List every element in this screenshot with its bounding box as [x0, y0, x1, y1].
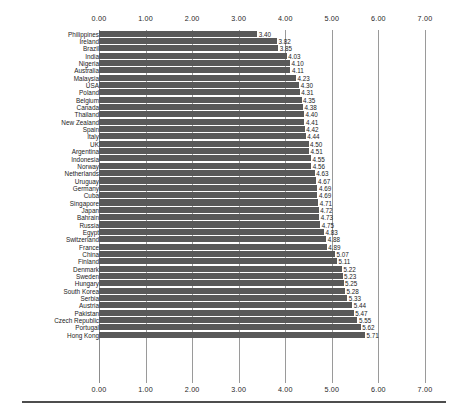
bar-row[interactable]: USA4.30	[0, 81, 466, 88]
bar[interactable]	[99, 53, 287, 59]
bar[interactable]	[99, 199, 318, 205]
bar[interactable]	[99, 317, 357, 323]
bar-row[interactable]: Norway4.56	[0, 162, 466, 169]
bar[interactable]	[99, 214, 319, 220]
bar[interactable]	[99, 97, 302, 103]
bar-row[interactable]: Thailand4.40	[0, 111, 466, 118]
category-label: Portugal	[75, 324, 99, 331]
bar[interactable]	[99, 133, 306, 139]
bar[interactable]	[99, 126, 305, 132]
category-label: USA	[86, 82, 99, 89]
bar[interactable]	[99, 119, 304, 125]
bar-row[interactable]: Uruguay4.67	[0, 177, 466, 184]
bar-row[interactable]: Switzerland4.88	[0, 236, 466, 243]
bar[interactable]	[99, 177, 316, 183]
bar[interactable]	[99, 229, 324, 235]
bar-row[interactable]: Finland5.11	[0, 258, 466, 265]
bar-row[interactable]: Japan4.72	[0, 206, 466, 213]
bar-row[interactable]: Spain4.42	[0, 125, 466, 132]
bar[interactable]	[99, 75, 296, 81]
bar[interactable]	[99, 280, 344, 286]
bar-value-label: 4.89	[327, 243, 341, 250]
bar-row[interactable]: Cuba4.69	[0, 192, 466, 199]
bar[interactable]	[99, 104, 303, 110]
bar[interactable]	[99, 89, 300, 95]
bar-row[interactable]: India4.03	[0, 52, 466, 59]
bar[interactable]	[99, 288, 345, 294]
bar[interactable]	[99, 332, 365, 338]
bar-row[interactable]: Malaysia4.23	[0, 74, 466, 81]
bar-value-label: 4.10	[290, 60, 304, 67]
bar[interactable]	[99, 251, 335, 257]
bar[interactable]	[99, 185, 317, 191]
bar-row[interactable]: Argentina4.51	[0, 148, 466, 155]
bar-row[interactable]: Canada4.38	[0, 103, 466, 110]
bar[interactable]	[99, 221, 320, 227]
category-label: Italy	[87, 133, 99, 140]
category-label: Brazil	[83, 45, 99, 52]
bar[interactable]	[99, 148, 309, 154]
bar-row[interactable]: Belgium4.35	[0, 96, 466, 103]
bar-row[interactable]: Netherlands4.63	[0, 170, 466, 177]
bar[interactable]	[99, 60, 290, 66]
bar[interactable]	[99, 163, 311, 169]
category-label: Japan	[82, 206, 99, 213]
bar-row[interactable]: Bahrain4.73	[0, 214, 466, 221]
bar-value-label: 5.62	[361, 324, 375, 331]
bar-row[interactable]: Serbia5.33	[0, 294, 466, 301]
bar[interactable]	[99, 324, 361, 330]
bar-row[interactable]: Pakistan5.47	[0, 309, 466, 316]
x-tick-label-bottom-2.00: 2.00	[185, 385, 200, 394]
bar[interactable]	[99, 273, 343, 279]
bar-row[interactable]: Nigeria4.10	[0, 59, 466, 66]
bar[interactable]	[99, 141, 309, 147]
bar[interactable]	[99, 244, 327, 250]
bar-value-label: 4.69	[317, 192, 331, 199]
bar[interactable]	[99, 170, 315, 176]
category-label: Russia	[79, 221, 99, 228]
bar[interactable]	[99, 31, 257, 37]
bar-row[interactable]: Sweden5.23	[0, 272, 466, 279]
bar-row[interactable]: South Korea5.28	[0, 287, 466, 294]
bar-row[interactable]: China5.07	[0, 250, 466, 257]
bar-row[interactable]: Austria5.44	[0, 302, 466, 309]
bar[interactable]	[99, 192, 317, 198]
bar[interactable]	[99, 207, 319, 213]
bar[interactable]	[99, 302, 352, 308]
bar-row[interactable]: Czech Republic5.55	[0, 316, 466, 323]
bar-row[interactable]: Singapore4.71	[0, 199, 466, 206]
bar-row[interactable]: Brazil3.85	[0, 45, 466, 52]
bar-row[interactable]: Portugal5.62	[0, 324, 466, 331]
bar-row[interactable]: Ireland3.82	[0, 37, 466, 44]
bar-row[interactable]: Russia4.75	[0, 221, 466, 228]
category-label: Malaysia	[74, 74, 99, 81]
bar[interactable]	[99, 45, 278, 51]
bar-row[interactable]: Egypt4.83	[0, 228, 466, 235]
bar[interactable]	[99, 155, 311, 161]
bar-row[interactable]: Australia4.11	[0, 67, 466, 74]
bar-value-label: 4.35	[302, 96, 316, 103]
bar[interactable]	[99, 67, 290, 73]
bar[interactable]	[99, 111, 304, 117]
bar[interactable]	[99, 266, 342, 272]
bar-row[interactable]: Denmark5.22	[0, 265, 466, 272]
bar-row[interactable]: Indonesia4.55	[0, 155, 466, 162]
bar[interactable]	[99, 38, 277, 44]
bar[interactable]	[99, 82, 299, 88]
bar-row[interactable]: Philippines3.40	[0, 30, 466, 37]
bar-value-label: 4.23	[296, 74, 310, 81]
bar-row[interactable]: Germany4.69	[0, 184, 466, 191]
bar[interactable]	[99, 258, 337, 264]
bar-row[interactable]: Italy4.44	[0, 133, 466, 140]
bar-row[interactable]: Poland4.31	[0, 89, 466, 96]
x-tick-label-top-6.00: 6.00	[371, 14, 386, 23]
category-label: Singapore	[70, 199, 99, 206]
bar-row[interactable]: France4.89	[0, 243, 466, 250]
bar-row[interactable]: Hong Kong5.71	[0, 331, 466, 338]
bar[interactable]	[99, 295, 347, 301]
bar-row[interactable]: UK4.50	[0, 140, 466, 147]
bar-row[interactable]: Hungary5.25	[0, 280, 466, 287]
bar-row[interactable]: New Zealand4.41	[0, 118, 466, 125]
bar[interactable]	[99, 236, 326, 242]
bar[interactable]	[99, 310, 354, 316]
